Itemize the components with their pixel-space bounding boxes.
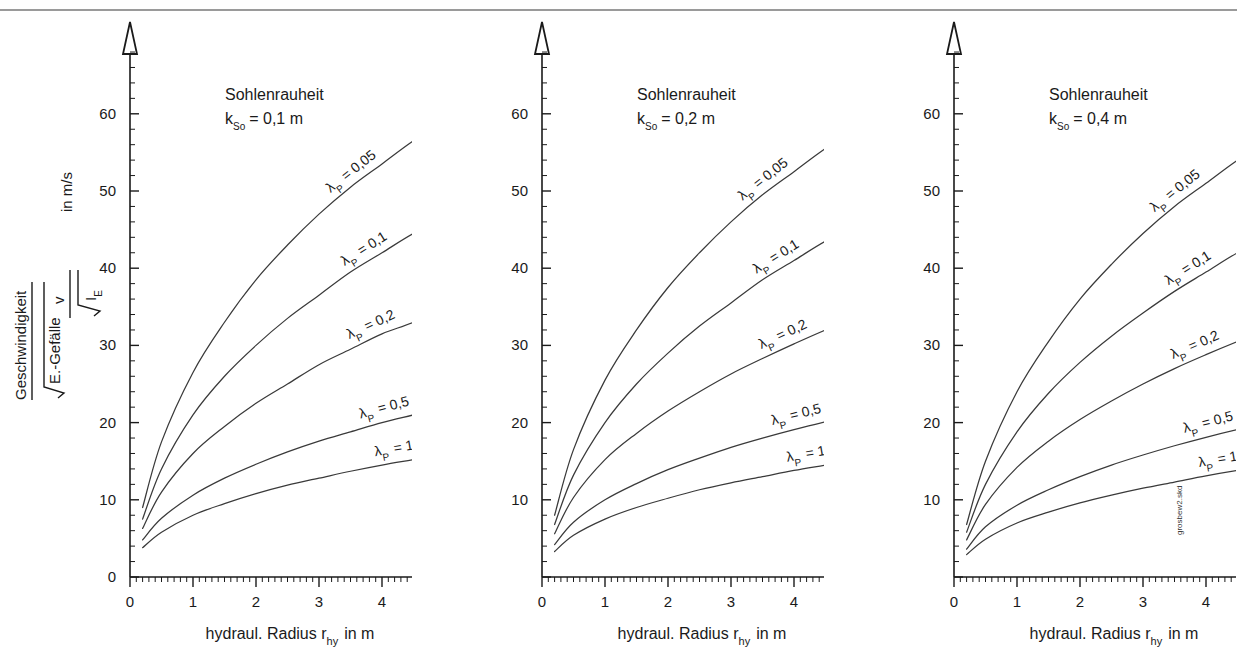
y-axis-arrow-icon	[947, 22, 961, 54]
y-tick-label: 50	[923, 182, 940, 199]
x-tick-label: 0	[538, 593, 546, 610]
curve-label: λP = 0,05	[734, 154, 793, 207]
x-tick-label: 3	[315, 593, 323, 610]
y-tick-label: 40	[99, 259, 116, 276]
y-axis-formula-group: vIE	[50, 270, 104, 318]
y-axis-unit: in m/s	[58, 172, 75, 212]
y-tick-label: 30	[923, 336, 940, 353]
curve-label-group: λP = 0,1	[338, 228, 392, 273]
curve-lambda-p-0-05	[967, 141, 1236, 525]
panel-title-line2: kSo= 0,1 m	[225, 110, 303, 132]
curve-label: λP = 0,2	[344, 306, 399, 346]
y-tick-label: 20	[923, 414, 940, 431]
curve-label-group: λP = 0,5	[357, 393, 412, 426]
x-tick-label: 4	[1202, 593, 1210, 610]
x-tick-label: 1	[189, 593, 197, 610]
y-tick-label: 40	[511, 259, 528, 276]
curve-label-group: λP = 1	[785, 442, 824, 469]
y-axis-formula-denominator: IE	[82, 290, 104, 301]
y-axis-numerator: Geschwindigkeit	[12, 290, 29, 400]
y-tick-label: 60	[99, 105, 116, 122]
x-axis-title: hydraul. Radius rhyin m	[618, 625, 787, 647]
y-tick-label: 60	[923, 105, 940, 122]
y-axis-denominator: E.-Gefälle	[46, 317, 63, 384]
curve-lambda-p-0-5	[555, 414, 824, 544]
curve-lambda-p-1	[967, 466, 1236, 555]
panel-title-line1: Sohlenrauheit	[225, 86, 324, 103]
x-axis-title: hydraul. Radius rhyin m	[1030, 625, 1199, 647]
curve-lambda-p-0-1	[555, 226, 824, 525]
curve-lambda-p-0-1	[143, 218, 412, 519]
curve-label-group: λP = 1	[1197, 447, 1236, 474]
chart-svg: 102030405060012345λP = 0,05λP = 0,1λP = …	[824, 0, 1236, 649]
curve-label: λP = 0,5	[1181, 408, 1236, 441]
x-axis-title: hydraul. Radius rhyin m	[206, 625, 375, 647]
curve-lambda-p-0-1	[967, 237, 1236, 532]
curve-label-group: λP = 0,05	[322, 146, 381, 199]
curve-label: λP = 0,1	[338, 228, 392, 273]
curve-label: λP = 0,05	[1146, 166, 1205, 219]
curve-label-group: λP = 0,5	[769, 400, 824, 433]
curve-label: λP = 0,1	[750, 235, 804, 280]
curve-label-group: λP = 1	[373, 437, 412, 464]
curve-lambda-p-0-5	[967, 423, 1236, 550]
x-tick-label: 1	[1013, 593, 1021, 610]
panel-title-line1: Sohlenrauheit	[637, 86, 736, 103]
x-tick-label: 2	[1076, 593, 1084, 610]
curve-label: λP = 0,5	[769, 400, 824, 433]
panel-title-line2: kSo= 0,4 m	[1049, 110, 1127, 132]
x-tick-label: 0	[126, 593, 134, 610]
curve-label: λP = 0,05	[322, 146, 381, 199]
x-tick-label: 3	[727, 593, 735, 610]
x-tick-label: 3	[1139, 593, 1147, 610]
x-tick-label: 2	[252, 593, 260, 610]
y-tick-label: 0	[108, 568, 116, 585]
y-axis-arrow-icon	[535, 22, 549, 54]
curve-label-group: λP = 0,2	[1168, 327, 1223, 366]
watermark-group: grosbew2.skd	[1175, 486, 1184, 535]
panel-k-so-0-1: 0102030405060012345λP = 0,05λP = 0,1λP =…	[0, 0, 412, 649]
curve-label-group: λP = 0,05	[734, 154, 793, 207]
curve-label-group: λP = 0,1	[750, 235, 804, 280]
y-axis-formula-numerator: v	[50, 296, 67, 304]
curve-label: λP = 1	[785, 442, 824, 469]
y-tick-label: 10	[511, 491, 528, 508]
curve-label-group: λP = 0,2	[756, 316, 811, 356]
y-axis-arrow-icon	[123, 22, 137, 54]
curve-lambda-p-1	[143, 454, 412, 547]
y-tick-label: 40	[923, 259, 940, 276]
curve-label: λP = 1	[373, 437, 412, 464]
curve-label: λP = 0,1	[1162, 247, 1216, 291]
panel-title-line2: kSo= 0,2 m	[637, 110, 715, 132]
panel-k-so-0-2: 102030405060012345λP = 0,05λP = 0,1λP = …	[412, 0, 824, 649]
chart-svg: 102030405060012345λP = 0,05λP = 0,1λP = …	[412, 0, 824, 649]
y-tick-label: 50	[99, 182, 116, 199]
panel-title-line1: Sohlenrauheit	[1049, 86, 1148, 103]
watermark-label: grosbew2.skd	[1175, 486, 1184, 535]
y-tick-label: 10	[923, 491, 940, 508]
x-tick-label: 2	[664, 593, 672, 610]
y-tick-label: 20	[511, 414, 528, 431]
curve-label-group: λP = 0,05	[1146, 166, 1205, 219]
x-tick-label: 4	[790, 593, 798, 610]
chart-page: 0102030405060012345λP = 0,05λP = 0,1λP =…	[0, 0, 1237, 649]
curve-lambda-p-0-05	[555, 129, 824, 515]
y-tick-label: 60	[511, 105, 528, 122]
y-tick-label: 30	[99, 336, 116, 353]
y-tick-label: 20	[99, 414, 116, 431]
curve-label-group: λP = 0,5	[1181, 408, 1236, 441]
panel-k-so-0-4: 102030405060012345λP = 0,05λP = 0,1λP = …	[824, 0, 1236, 649]
curve-label-group: λP = 0,2	[344, 306, 399, 346]
chart-svg: 0102030405060012345λP = 0,05λP = 0,1λP =…	[0, 0, 412, 649]
curve-label: λP = 0,2	[756, 316, 811, 356]
y-tick-label: 30	[511, 336, 528, 353]
y-axis-unit-group: in m/s	[58, 172, 75, 212]
y-tick-label: 50	[511, 182, 528, 199]
x-tick-label: 0	[950, 593, 958, 610]
x-tick-label: 1	[601, 593, 609, 610]
curve-label: λP = 0,2	[1168, 327, 1223, 366]
curve-label: λP = 0,5	[357, 393, 412, 426]
curve-label: λP = 1	[1197, 447, 1236, 474]
x-tick-label: 4	[378, 593, 386, 610]
curve-label-group: λP = 0,1	[1162, 247, 1216, 291]
